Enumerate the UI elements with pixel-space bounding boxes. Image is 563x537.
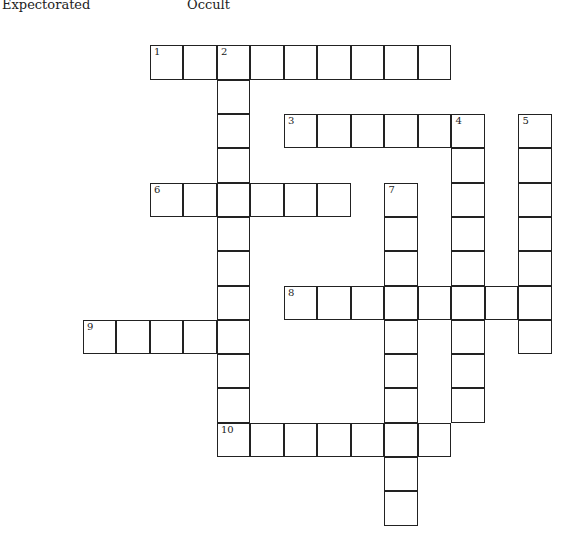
- crossword-cell[interactable]: [451, 183, 485, 217]
- crossword-cell[interactable]: [384, 217, 418, 251]
- crossword-cell[interactable]: [384, 251, 418, 285]
- crossword-cell[interactable]: 7: [384, 183, 418, 217]
- clue-number: 7: [388, 185, 394, 195]
- crossword-cell[interactable]: [418, 423, 452, 457]
- clue-number: 4: [455, 116, 461, 126]
- clue-number: 3: [288, 116, 294, 126]
- crossword-cell[interactable]: [518, 286, 552, 320]
- clue-number: 5: [522, 116, 528, 126]
- crossword-cell[interactable]: 10: [217, 423, 251, 457]
- crossword-cell[interactable]: [518, 251, 552, 285]
- clue-number: 6: [154, 185, 160, 195]
- crossword-cell[interactable]: [217, 114, 251, 148]
- crossword-cell[interactable]: [351, 45, 385, 79]
- crossword-cell[interactable]: [518, 320, 552, 354]
- crossword-cell[interactable]: [384, 320, 418, 354]
- hint-word-expectorated: Expectorated: [2, 0, 90, 12]
- clue-number: 9: [87, 322, 93, 332]
- crossword-cell[interactable]: [250, 45, 284, 79]
- clue-number: 8: [288, 288, 294, 298]
- crossword-cell[interactable]: 5: [518, 114, 552, 148]
- crossword-cell[interactable]: [451, 388, 485, 422]
- crossword-cell[interactable]: [384, 491, 418, 525]
- crossword-cell[interactable]: [351, 114, 385, 148]
- crossword-cell[interactable]: [183, 45, 217, 79]
- crossword-cell[interactable]: [250, 423, 284, 457]
- crossword-cell[interactable]: [250, 183, 284, 217]
- crossword-cell[interactable]: [183, 183, 217, 217]
- crossword-cell[interactable]: 2: [217, 45, 251, 79]
- crossword-cell[interactable]: [217, 286, 251, 320]
- crossword-cell[interactable]: [451, 320, 485, 354]
- crossword-cell[interactable]: [317, 114, 351, 148]
- crossword-cell[interactable]: [384, 286, 418, 320]
- crossword-cell[interactable]: [217, 148, 251, 182]
- crossword-cell[interactable]: [418, 286, 452, 320]
- clue-number: 10: [221, 425, 234, 435]
- crossword-cell[interactable]: [418, 114, 452, 148]
- crossword-cell[interactable]: [284, 423, 318, 457]
- crossword-cell[interactable]: 8: [284, 286, 318, 320]
- crossword-cell[interactable]: [384, 45, 418, 79]
- crossword-cell[interactable]: [217, 388, 251, 422]
- crossword-cell[interactable]: [384, 388, 418, 422]
- crossword-cell[interactable]: [451, 251, 485, 285]
- crossword-cell[interactable]: [217, 80, 251, 114]
- crossword-cell[interactable]: [317, 183, 351, 217]
- crossword-cell[interactable]: [217, 183, 251, 217]
- crossword-cell[interactable]: [451, 354, 485, 388]
- clue-number: 1: [154, 47, 160, 57]
- crossword-cell[interactable]: [116, 320, 150, 354]
- crossword-cell[interactable]: [351, 286, 385, 320]
- crossword-cell[interactable]: [183, 320, 217, 354]
- crossword-cell[interactable]: [217, 354, 251, 388]
- crossword-cell[interactable]: [451, 286, 485, 320]
- crossword-cell[interactable]: [518, 148, 552, 182]
- crossword-cell[interactable]: [451, 217, 485, 251]
- crossword-cell[interactable]: [217, 217, 251, 251]
- crossword-cell[interactable]: [351, 423, 385, 457]
- crossword-cell[interactable]: 3: [284, 114, 318, 148]
- crossword-cell[interactable]: [317, 45, 351, 79]
- crossword-cell[interactable]: [384, 354, 418, 388]
- crossword-cell[interactable]: [217, 251, 251, 285]
- crossword-cell[interactable]: 6: [150, 183, 184, 217]
- crossword-cell[interactable]: [284, 45, 318, 79]
- crossword-cell[interactable]: [485, 286, 519, 320]
- crossword-cell[interactable]: [518, 183, 552, 217]
- crossword-cell[interactable]: [418, 45, 452, 79]
- crossword-cell[interactable]: [284, 183, 318, 217]
- clue-number: 2: [221, 47, 227, 57]
- crossword-cell[interactable]: [317, 286, 351, 320]
- hint-word-occult: Occult: [187, 0, 230, 12]
- crossword-cell[interactable]: [317, 423, 351, 457]
- crossword-cell[interactable]: [150, 320, 184, 354]
- crossword-cell[interactable]: [451, 148, 485, 182]
- crossword-cell[interactable]: [384, 423, 418, 457]
- crossword-cell[interactable]: 9: [83, 320, 117, 354]
- crossword-cell[interactable]: [217, 320, 251, 354]
- crossword-cell[interactable]: [518, 217, 552, 251]
- crossword-cell[interactable]: [384, 114, 418, 148]
- crossword-cell[interactable]: 4: [451, 114, 485, 148]
- crossword-cell[interactable]: 1: [150, 45, 184, 79]
- crossword-cell[interactable]: [384, 457, 418, 491]
